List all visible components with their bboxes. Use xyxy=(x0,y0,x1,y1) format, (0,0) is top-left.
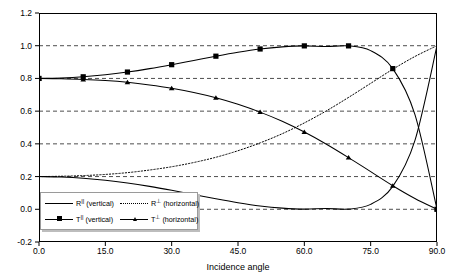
legend-item: R|| (vertical) xyxy=(44,195,119,211)
legend-label: R⊥ (horizontal) xyxy=(151,197,199,208)
x-tick-label: 0.0 xyxy=(33,247,45,256)
legend-symbol-triangle-icon xyxy=(119,214,149,225)
y-tick-label: 1.0 xyxy=(20,41,32,50)
x-tick-label: 90.0 xyxy=(429,247,446,256)
legend-label: R|| (vertical) xyxy=(76,198,114,208)
chart-legend: R|| (vertical)R⊥ (horizontal)T|| (vertic… xyxy=(40,192,198,230)
y-tick-label: 0.2 xyxy=(20,172,32,181)
legend-item: T|| (vertical) xyxy=(44,211,119,227)
fresnel-power-fraction-chart: Power fraction Incidence angle -0.20.00.… xyxy=(0,0,450,280)
legend-item: T⊥ (horizontal) xyxy=(119,211,194,227)
x-tick-label: 75.0 xyxy=(362,247,379,256)
legend-label: T⊥ (horizontal) xyxy=(151,213,198,224)
x-tick-label: 30.0 xyxy=(163,247,180,256)
y-tick-label: 0.6 xyxy=(20,107,32,116)
y-tick-label: 0.4 xyxy=(20,140,32,149)
legend-symbol-line-icon xyxy=(44,198,74,209)
y-tick-label: 0.8 xyxy=(20,74,32,83)
y-tick-label: -0.2 xyxy=(17,238,32,247)
x-tick-label: 15.0 xyxy=(97,247,114,256)
y-tick-label: 0.0 xyxy=(20,205,32,214)
legend-symbol-line-icon xyxy=(119,198,149,209)
x-tick-label: 60.0 xyxy=(296,247,313,256)
x-axis-label: Incidence angle xyxy=(206,262,269,272)
x-tick-label: 45.0 xyxy=(230,247,247,256)
legend-symbol-square-icon xyxy=(44,214,74,225)
y-tick-label: 1.2 xyxy=(20,9,32,18)
legend-label: T|| (vertical) xyxy=(76,214,113,224)
legend-item: R⊥ (horizontal) xyxy=(119,195,194,211)
